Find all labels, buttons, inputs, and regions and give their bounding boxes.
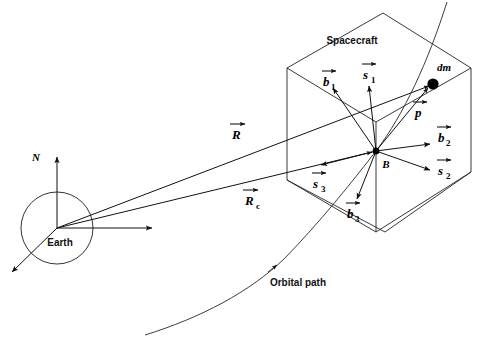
cube-bottom-face-edge-right (376, 172, 471, 232)
label-orbital-path: Orbital path (270, 277, 326, 288)
label-vector-R: R (230, 124, 245, 142)
vector-Rc-subscript: c (256, 201, 260, 211)
vector-b2-symbol: b (438, 130, 445, 145)
label-vector-b1: b 1 (322, 71, 336, 92)
vector-s2-symbol: s (437, 163, 443, 178)
vector-b1-subscript: 1 (331, 82, 336, 92)
label-vector-s2: s 2 (437, 160, 451, 181)
label-body-origin: B (381, 158, 389, 170)
vector-R-symbol: R (231, 127, 241, 142)
vector-s3-symbol: s (312, 176, 318, 191)
cube-outline (287, 13, 471, 232)
earth-group (12, 157, 152, 272)
label-north-axis: N (31, 151, 41, 163)
label-spacecraft: Spacecraft (326, 35, 378, 46)
vector-b1-symbol: b (323, 74, 330, 89)
vector-s3-line (321, 151, 376, 165)
label-vector-s3: s 3 (312, 173, 326, 194)
vector-b1-line (333, 88, 376, 151)
vector-s1-subscript: 1 (371, 75, 376, 85)
label-vector-Rc: R c (243, 190, 260, 211)
vector-s1-symbol: s (362, 67, 368, 82)
label-vector-rho: p (413, 102, 427, 120)
vector-b3-line (357, 151, 376, 199)
vector-s3-subscript: 3 (321, 184, 326, 194)
label-vector-s1: s 1 (362, 64, 376, 85)
diagram-canvas: Spacecraft Earth Orbital path N B dm R R… (0, 0, 489, 338)
label-mass-element: dm (437, 61, 452, 73)
orbit-direction-arrow (268, 265, 277, 272)
vector-s2-subscript: 2 (446, 171, 451, 181)
orbit-arc-lower (145, 258, 285, 335)
label-vector-b3: b 3 (346, 203, 360, 224)
label-earth: Earth (47, 237, 73, 248)
vector-b3-subscript: 3 (355, 214, 360, 224)
label-vector-b2: b 2 (437, 127, 451, 148)
mass-element-dm-dot (427, 78, 438, 89)
vector-Rc-symbol: R (244, 193, 254, 208)
spacecraft-cube (287, 13, 471, 232)
vector-rho-symbol: p (414, 105, 422, 120)
vector-b2-line (376, 144, 430, 151)
cube-top-face-edge-right (376, 68, 471, 122)
body-origin-dot (373, 148, 380, 155)
spacecraft-orbital-diagram: Spacecraft Earth Orbital path N B dm R R… (0, 0, 489, 338)
earth-axis-diagonal (12, 228, 57, 272)
vector-b2-subscript: 2 (446, 138, 451, 148)
vector-b3-symbol: b (347, 206, 354, 221)
